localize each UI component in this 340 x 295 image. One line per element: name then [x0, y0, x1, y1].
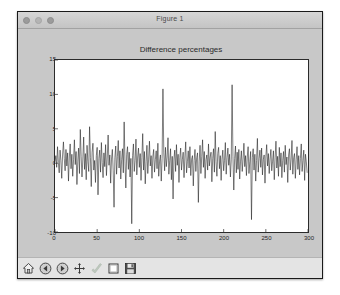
x-axis-tick-label: 100 [127, 235, 151, 241]
y-axis-tick-label: 0 [26, 160, 56, 166]
save-floppy-icon[interactable] [123, 261, 138, 276]
home-icon[interactable] [21, 261, 36, 276]
y-axis-tick-label: -5 [26, 195, 56, 201]
y-axis-tick-label: 5 [26, 126, 56, 132]
x-axis-tick-label: 150 [170, 235, 194, 241]
figure-window: Figure 1 Difference percentages -10-5051… [17, 11, 323, 279]
pan-move-icon[interactable] [72, 261, 87, 276]
navigation-toolbar [18, 257, 322, 278]
x-axis-tick-label: 200 [212, 235, 236, 241]
back-arrow-icon[interactable] [38, 261, 53, 276]
desktop-backdrop: Figure 1 Difference percentages -10-5051… [0, 0, 340, 295]
x-axis-tick-label: 50 [85, 235, 109, 241]
window-title-bar[interactable]: Figure 1 [18, 12, 322, 29]
y-axis-tick-label: 10 [26, 91, 56, 97]
line-series-difference-percentage [55, 60, 308, 232]
window-title: Figure 1 [18, 15, 322, 22]
x-axis-tick-label: 0 [42, 235, 66, 241]
zoom-rect-icon[interactable] [89, 261, 104, 276]
y-axis-tick-label: 15 [26, 56, 56, 62]
configure-subplots-icon[interactable] [106, 261, 121, 276]
figure-canvas: Difference percentages -10-5051015050100… [18, 29, 322, 258]
x-axis-tick-label: 300 [297, 235, 321, 241]
forward-arrow-icon[interactable] [55, 261, 70, 276]
plot-axes[interactable] [54, 59, 309, 233]
x-axis-tick-label: 250 [255, 235, 279, 241]
